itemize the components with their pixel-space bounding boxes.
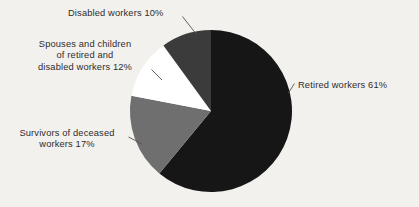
slice-label-survivors-line-1: Survivors of deceased: [19, 128, 114, 138]
slice-label-survivors-of-deceased-workers: Survivors of deceasedworkers 17%: [6, 128, 128, 151]
slice-label-spouses-line-3: disabled workers 12%: [38, 62, 132, 72]
pie-chart-figure: Disabled workers 10% Spouses and childre…: [0, 0, 419, 207]
leader-line-disabled-workers: [183, 17, 197, 35]
slice-label-retired-workers: Retired workers 61%: [298, 80, 387, 91]
slice-label-spouses-line-2: of retired and: [57, 50, 114, 60]
pie-chart-canvas: [0, 0, 419, 207]
slice-label-spouses-and-children: Spouses and childrenof retired anddisabl…: [14, 39, 156, 73]
slice-label-retired-workers-text: Retired workers 61%: [298, 80, 387, 90]
slice-label-survivors-line-2: workers 17%: [39, 139, 94, 149]
slice-label-disabled-workers: Disabled workers 10%: [68, 8, 164, 19]
slice-label-disabled-workers-text: Disabled workers 10%: [68, 8, 164, 18]
leader-line-retired-workers: [288, 84, 295, 94]
slice-label-spouses-line-1: Spouses and children: [39, 39, 131, 49]
